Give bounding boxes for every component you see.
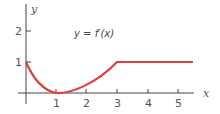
y-axis-label: y: [30, 3, 38, 16]
x-tick-label-3: 3: [114, 97, 121, 110]
x-tick-label-1: 1: [53, 97, 60, 110]
x-tick-label-5: 5: [175, 97, 182, 110]
x-axis-label: x: [203, 87, 210, 100]
x-tick-label-2: 2: [83, 97, 90, 110]
x-tick-label-4: 4: [145, 97, 152, 110]
derivative-chart: 1 2 1 2 3 4 5 y x y = f′(x): [0, 0, 220, 114]
derivative-curve: [26, 62, 193, 93]
y-tick-label-2: 2: [15, 25, 22, 38]
function-label: y = f′(x): [73, 28, 114, 39]
y-tick-label-1: 1: [15, 56, 22, 69]
